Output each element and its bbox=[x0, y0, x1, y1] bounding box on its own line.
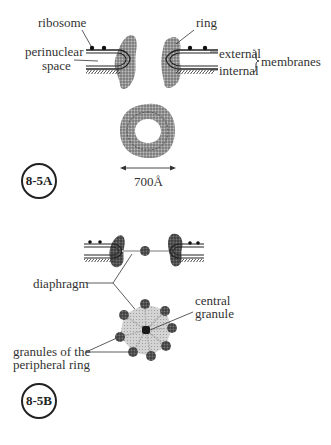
right-hatch-b bbox=[178, 259, 204, 262]
central-granule bbox=[140, 246, 150, 256]
granules-leader-1 bbox=[86, 337, 119, 352]
ribosome-dot bbox=[188, 46, 192, 50]
label-perinuclear-space-line2: space bbox=[42, 59, 71, 72]
label-external: external bbox=[219, 47, 261, 60]
scale-arrow-left-icon bbox=[120, 166, 126, 171]
label-granules-line2: peripheral ring bbox=[13, 358, 90, 371]
label-ring: ring bbox=[196, 16, 217, 29]
label-scale-700A: 700Å bbox=[134, 175, 163, 188]
right-hatch bbox=[176, 70, 214, 74]
figure-badge-8-5B: 8-5B bbox=[21, 383, 57, 419]
figure-a-face-view bbox=[120, 104, 176, 171]
label-membranes: membranes bbox=[261, 55, 321, 68]
label-diaphragm: diaphragm bbox=[33, 277, 89, 290]
ribosome-dot bbox=[188, 241, 192, 245]
ribosome-dot bbox=[98, 240, 102, 244]
label-central-granule-line2: granule bbox=[195, 307, 234, 320]
ribosome-dot bbox=[203, 46, 207, 50]
scale-arrow-right-icon bbox=[170, 166, 176, 171]
central-granule-face bbox=[142, 326, 150, 334]
ribosome-leader bbox=[82, 30, 91, 46]
ribosome-dot bbox=[90, 46, 94, 50]
left-hatch-b bbox=[84, 259, 114, 262]
nuclear-pore-diagram: ribosome ring perinuclear space external… bbox=[0, 0, 331, 445]
ring-leader bbox=[176, 30, 194, 44]
label-ribosome: ribosome bbox=[38, 16, 86, 29]
ribosome-dot bbox=[88, 240, 92, 244]
ribosome-dot bbox=[196, 241, 200, 245]
label-perinuclear-space-line1: perinuclear bbox=[25, 45, 83, 58]
left-hatch bbox=[86, 70, 120, 74]
perinuclear-leader bbox=[74, 60, 98, 61]
label-internal: internal bbox=[219, 64, 259, 77]
figure-badge-8-5A: 8-5A bbox=[21, 163, 57, 199]
figure-b-face-view bbox=[86, 299, 193, 361]
ribosome-dot bbox=[102, 46, 106, 50]
